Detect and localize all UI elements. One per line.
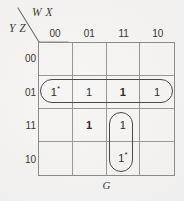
cell-value: 1 bbox=[154, 87, 160, 98]
cell-value: 1 bbox=[86, 87, 92, 98]
row-axis-label: Y Z bbox=[9, 23, 26, 35]
cell-value: 1* bbox=[118, 153, 127, 164]
cell-value: 1* bbox=[51, 87, 60, 98]
column-header-row: 00 01 11 10 bbox=[38, 26, 175, 41]
row-header-column: 00 01 11 10 bbox=[10, 42, 36, 176]
row-header-3: 10 bbox=[10, 143, 36, 177]
row-header-2: 11 bbox=[10, 109, 36, 143]
kmap-cell-r3c2[interactable]: 1* bbox=[107, 142, 141, 175]
function-label: G bbox=[38, 180, 175, 191]
karnaugh-map-grid: 1* 1 1 1 1 1 1* bbox=[38, 42, 175, 176]
kmap-cell-r1c0[interactable]: 1* bbox=[39, 76, 73, 109]
column-header-0: 00 bbox=[38, 26, 72, 41]
kmap-cell-r1c3[interactable]: 1 bbox=[140, 76, 174, 109]
cell-value: 1 bbox=[120, 120, 126, 131]
kmap-cell-r3c0[interactable] bbox=[39, 142, 73, 175]
row-header-1: 01 bbox=[10, 76, 36, 110]
column-axis-label: W X bbox=[32, 7, 53, 19]
kmap-cell-r1c2[interactable]: 1 bbox=[107, 76, 141, 109]
kmap-cell-r0c3[interactable] bbox=[140, 43, 174, 76]
column-header-3: 10 bbox=[141, 26, 175, 41]
kmap-cell-r2c2[interactable]: 1 bbox=[107, 109, 141, 142]
kmap-cell-r1c1[interactable]: 1 bbox=[73, 76, 107, 109]
cell-star-marker: * bbox=[124, 150, 127, 159]
kmap-cell-r2c0[interactable] bbox=[39, 109, 73, 142]
kmap-cell-r0c2[interactable] bbox=[107, 43, 141, 76]
kmap-cell-r0c0[interactable] bbox=[39, 43, 73, 76]
row-header-0: 00 bbox=[10, 42, 36, 76]
kmap-cell-r2c1[interactable]: 1 bbox=[73, 109, 107, 142]
cell-value: 1 bbox=[86, 120, 92, 131]
column-header-1: 01 bbox=[72, 26, 106, 41]
cell-star-marker: * bbox=[57, 84, 60, 93]
karnaugh-map-figure: W X Y Z 00 01 11 10 00 01 11 10 1* 1 1 1… bbox=[0, 0, 184, 201]
kmap-cell-r3c1[interactable] bbox=[73, 142, 107, 175]
kmap-cell-r2c3[interactable] bbox=[140, 109, 174, 142]
column-header-2: 11 bbox=[107, 26, 141, 41]
kmap-cell-r3c3[interactable] bbox=[140, 142, 174, 175]
cell-value: 1 bbox=[120, 87, 126, 98]
kmap-cell-r0c1[interactable] bbox=[73, 43, 107, 76]
